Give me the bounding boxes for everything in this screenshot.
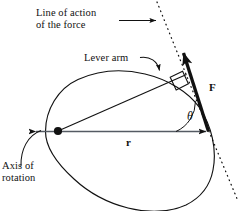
perpendicular-lever-arm bbox=[58, 75, 187, 132]
label-line-of-action: Line of action of the force bbox=[36, 7, 96, 31]
label-theta-angle: θ bbox=[187, 110, 193, 123]
lever-arm-leader-arrow bbox=[140, 57, 160, 70]
label-radius-vector: r bbox=[126, 136, 131, 148]
torque-diagram-figure: Line of action of the force Lever arm Ax… bbox=[0, 0, 243, 211]
label-lever-arm: Lever arm bbox=[84, 52, 128, 64]
label-force-vector: F bbox=[209, 81, 216, 93]
figure-canvas bbox=[0, 0, 243, 211]
label-axis-of-rotation: Axis of rotation bbox=[2, 160, 35, 184]
axis-of-rotation-dot bbox=[54, 127, 62, 135]
